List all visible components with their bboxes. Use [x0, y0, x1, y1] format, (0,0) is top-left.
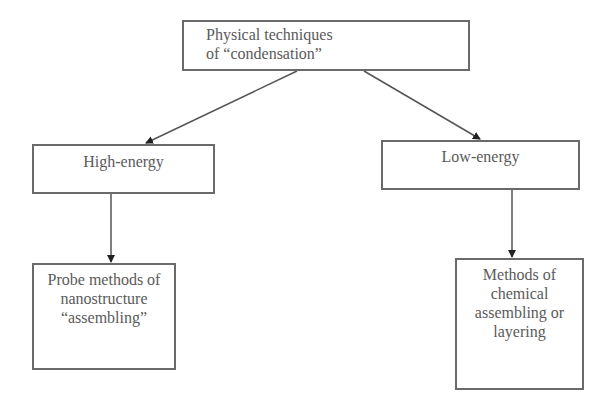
node-physical-techniques: Physical techniques of “condensation” [182, 20, 470, 71]
node-high-energy: High-energy [32, 144, 215, 194]
node-low-energy: Low-energy [381, 140, 580, 190]
node-label: High-energy [34, 152, 213, 171]
node-label: Probe methods of nanostructure “assembli… [34, 270, 174, 327]
node-probe-methods: Probe methods of nanostructure “assembli… [32, 263, 176, 370]
node-chemical-methods: Methods of chemical assembling or layeri… [455, 258, 584, 390]
node-label: Physical techniques of “condensation” [206, 25, 468, 63]
arrow-root-to-high-energy [146, 71, 297, 143]
node-label: Methods of chemical assembling or layeri… [457, 265, 582, 341]
arrow-root-to-low-energy [364, 71, 480, 139]
node-label: Low-energy [383, 147, 578, 166]
